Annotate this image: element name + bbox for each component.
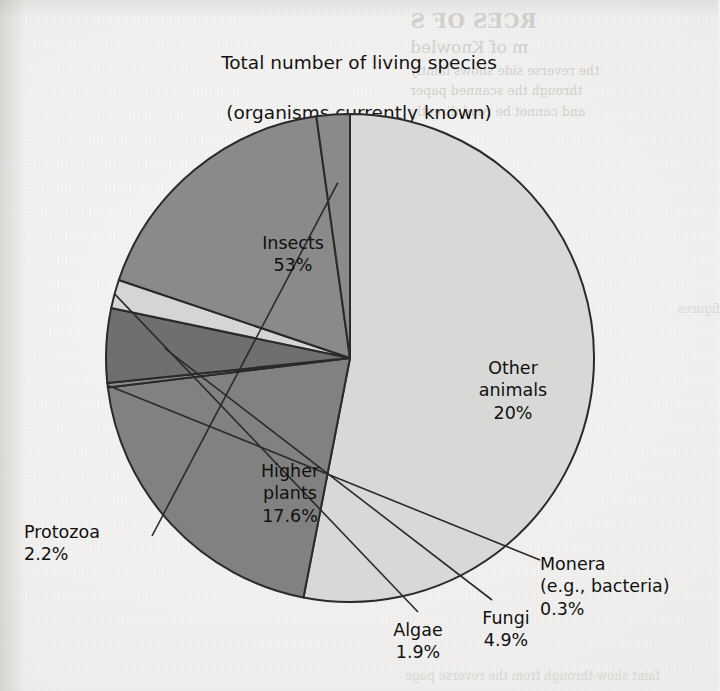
pie-slices-group — [106, 114, 594, 602]
